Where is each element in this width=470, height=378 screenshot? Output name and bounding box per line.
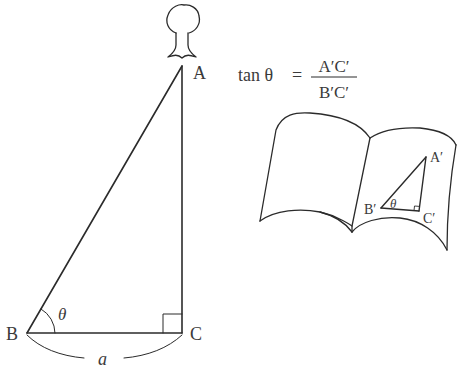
trig-diagram: A B C θ a tan θ = A′C′ B′C′ A′ B′ C′ θ [0, 0, 470, 378]
formula-numerator: A′C′ [318, 57, 349, 76]
small-triangle [381, 157, 426, 211]
open-book [260, 113, 456, 250]
main-triangle [27, 66, 182, 333]
base-brace [124, 335, 182, 358]
tangent-formula: tan θ = A′C′ B′C′ [238, 57, 357, 102]
vertex-label-a-prime: A′ [430, 150, 443, 165]
right-angle-marker [163, 314, 182, 333]
base-label-a: a [98, 349, 107, 369]
vertex-label-c: C [190, 324, 202, 344]
vertex-label-b-prime: B′ [364, 202, 376, 217]
base-brace [27, 335, 84, 358]
vertex-label-b: B [6, 324, 18, 344]
small-angle-label-theta: θ [390, 196, 397, 211]
angle-label-theta: θ [58, 305, 66, 324]
tree-icon [167, 5, 200, 58]
formula-equals: = [292, 65, 302, 85]
vertex-label-c-prime: C′ [423, 211, 435, 226]
angle-arc [41, 309, 55, 333]
formula-lhs: tan θ [238, 65, 273, 85]
formula-denominator: B′C′ [319, 83, 349, 102]
vertex-label-a: A [193, 63, 206, 83]
